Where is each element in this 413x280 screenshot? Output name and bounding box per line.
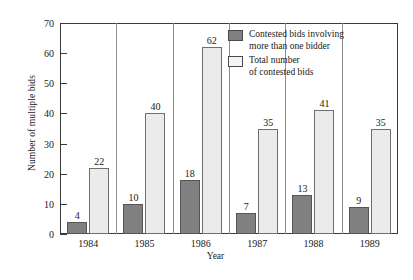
bar-value-label: 9 xyxy=(356,196,361,206)
bar-value-label: 18 xyxy=(185,169,195,179)
dark-gray-swatch-icon xyxy=(228,30,243,41)
bar: 40 xyxy=(145,113,165,234)
bar: 18 xyxy=(180,180,200,234)
y-axis-title: Number of multiple bids xyxy=(27,38,37,208)
legend-item-label: Total number of contested bids xyxy=(249,55,313,78)
bar-chart: Number of multiple bids 010203040506070 … xyxy=(0,0,413,280)
bar: 10 xyxy=(123,204,143,234)
x-tick-label: 1986 xyxy=(191,238,211,249)
legend-item-contested-multi-bidder: Contested bids involving more than one b… xyxy=(228,29,344,52)
x-axis-title: Year xyxy=(0,251,413,261)
legend-item-total-contested: Total number of contested bids xyxy=(228,55,344,78)
bar-value-label: 35 xyxy=(263,118,273,128)
bar-value-label: 13 xyxy=(297,184,307,194)
bar-group: 1862 xyxy=(173,23,229,234)
x-tick-label: 1984 xyxy=(78,238,98,249)
bar: 13 xyxy=(292,195,312,234)
y-tick-mark xyxy=(60,234,67,235)
bar: 22 xyxy=(89,168,109,234)
bar-value-label: 7 xyxy=(244,202,249,212)
bar-value-label: 41 xyxy=(319,99,329,109)
y-tick-label: 50 xyxy=(30,78,54,89)
bar: 9 xyxy=(349,207,369,234)
y-tick-label: 60 xyxy=(30,48,54,59)
x-tick-label: 1988 xyxy=(304,238,324,249)
bar-value-label: 40 xyxy=(150,102,160,112)
bar: 35 xyxy=(258,129,278,235)
bar: 62 xyxy=(202,47,222,234)
x-tick-label: 1989 xyxy=(360,238,380,249)
bar: 35 xyxy=(371,129,391,235)
white-swatch-icon xyxy=(228,56,243,67)
bar-value-label: 35 xyxy=(376,118,386,128)
bar-value-label: 4 xyxy=(75,211,80,221)
y-tick-label: 30 xyxy=(30,138,54,149)
bar: 7 xyxy=(236,213,256,234)
bar-value-label: 62 xyxy=(207,36,217,46)
bar-value-label: 22 xyxy=(94,157,104,167)
x-tick-label: 1985 xyxy=(135,238,155,249)
legend: Contested bids involving more than one b… xyxy=(228,29,344,81)
y-tick-label: 0 xyxy=(30,229,54,240)
bar: 4 xyxy=(67,222,87,234)
y-tick-label: 70 xyxy=(30,18,54,29)
bar-group: 935 xyxy=(342,23,398,234)
bar: 41 xyxy=(314,110,334,234)
y-tick-label: 20 xyxy=(30,168,54,179)
y-tick-label: 10 xyxy=(30,198,54,209)
bar-group: 1040 xyxy=(116,23,172,234)
x-tick-label: 1987 xyxy=(247,238,267,249)
y-tick-label: 40 xyxy=(30,108,54,119)
legend-item-label: Contested bids involving more than one b… xyxy=(249,29,344,52)
bar-group: 422 xyxy=(60,23,116,234)
bar-value-label: 10 xyxy=(128,193,138,203)
